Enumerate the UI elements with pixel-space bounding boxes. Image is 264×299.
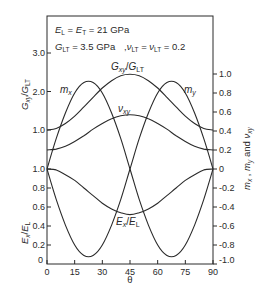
annotation-shear: GLT = 3.5 GPa xyxy=(55,41,116,53)
annotation-moduli: EL = ET = 21 GPa xyxy=(55,24,130,36)
left-upper-axis-title: Gxy/GLT xyxy=(19,79,32,110)
left-upper-tick-label: 1.0 xyxy=(32,125,45,135)
curve-my xyxy=(47,81,213,257)
annotation-poisson: ,νLT = νLT = 0.2 xyxy=(124,41,185,53)
label-gxy: Gxy/GLT xyxy=(111,61,145,74)
right-tick-label: 0.2 xyxy=(219,145,232,155)
right-tick-label: 0 xyxy=(219,164,224,174)
left-lower-tick-label: 1.0 xyxy=(32,164,45,174)
curves xyxy=(47,74,213,257)
left-lower-axis-title: Ex/EL xyxy=(19,221,31,244)
x-tick-label: 15 xyxy=(70,267,80,277)
left-upper-tick-label: 2.0 xyxy=(32,87,45,97)
x-axis-title: θ xyxy=(127,274,132,285)
axis-ticks: 01530456075901.02.03.000.20.40.60.81.0-1… xyxy=(32,48,234,277)
x-tick-label: 0 xyxy=(44,267,49,277)
x-tick-label: 60 xyxy=(153,267,163,277)
x-tick-label: 75 xyxy=(180,267,190,277)
right-tick-label: 1.0 xyxy=(219,69,232,79)
right-tick-label: 0.8 xyxy=(219,88,232,98)
x-tick-label: 30 xyxy=(97,267,107,277)
left-lower-tick-label: 0.8 xyxy=(32,183,45,193)
chart: 01530456075901.02.03.000.20.40.60.81.0-1… xyxy=(0,0,264,299)
right-tick-label: -0.8 xyxy=(219,240,235,250)
label-mx: mx xyxy=(60,84,72,96)
label-vxy: νxy xyxy=(118,103,131,116)
x-tick-label: 90 xyxy=(208,267,218,277)
right-axis-title: mx , my and νxy xyxy=(241,127,254,190)
left-lower-tick-label: 0.6 xyxy=(32,202,45,212)
right-tick-label: 0.4 xyxy=(219,126,232,136)
right-tick-label: -0.6 xyxy=(219,221,235,231)
curve-xy xyxy=(47,115,213,150)
left-upper-tick-label: 3.0 xyxy=(32,48,45,58)
right-tick-label: 0.6 xyxy=(219,107,232,117)
left-lower-tick-label: 0.4 xyxy=(32,221,45,231)
label-ex: Ex/EL xyxy=(116,216,140,228)
left-lower-tick-label: 0.2 xyxy=(32,240,45,250)
curve-exel xyxy=(47,169,213,215)
left-lower-tick-label: 0 xyxy=(38,255,43,265)
curve-gxyglt xyxy=(47,74,213,130)
right-tick-label: -1.0 xyxy=(219,255,235,265)
right-tick-label: -0.2 xyxy=(219,183,235,193)
right-tick-label: -0.4 xyxy=(219,202,235,212)
